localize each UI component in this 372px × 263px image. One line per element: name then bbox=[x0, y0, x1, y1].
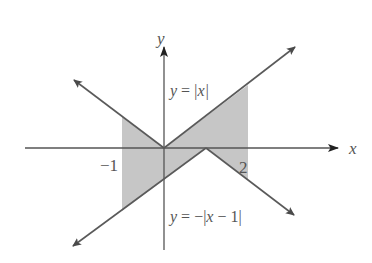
curve-label-abs-x: y =|x| bbox=[168, 82, 209, 100]
tick-label-neg-1: −1 bbox=[100, 156, 118, 175]
curve-abs-x-left-ray bbox=[74, 80, 164, 148]
curve-label-neg-abs-eq: = −| bbox=[177, 208, 206, 226]
area-between-curves-graph: y x −1 2 y =|x| y = −|x − 1| bbox=[0, 0, 372, 263]
x-axis-label: x bbox=[348, 139, 357, 158]
shaded-region-right bbox=[164, 85, 248, 180]
y-axis-label: y bbox=[155, 29, 165, 48]
shaded-region-left bbox=[122, 117, 164, 212]
curve-label-neg-abs-rest: − 1| bbox=[213, 208, 241, 226]
curve-neg-abs-right-ray bbox=[206, 148, 294, 215]
curve-label-neg-abs-x: x bbox=[205, 208, 213, 225]
curve-label-abs-x-eq: = bbox=[177, 82, 190, 99]
tick-label-2: 2 bbox=[239, 158, 248, 177]
curve-label-abs-x-abs: |x| bbox=[193, 82, 209, 100]
curve-label-neg-abs: y = −|x − 1| bbox=[168, 208, 242, 226]
